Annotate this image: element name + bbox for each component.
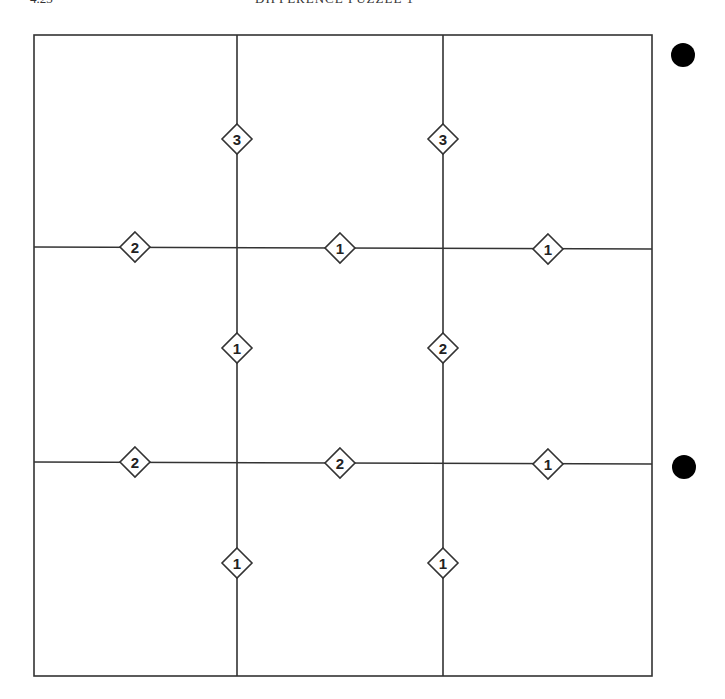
punch-hole-icon xyxy=(672,455,696,479)
diamond-value: 2 xyxy=(439,340,447,357)
diamond-value: 2 xyxy=(131,239,139,256)
diamond-clue: 1 xyxy=(533,449,563,479)
diamond-value: 1 xyxy=(544,241,552,258)
diamond-value: 3 xyxy=(439,131,447,148)
puzzle-grid: 3 3 2 1 1 1 2 2 2 1 1 1 xyxy=(0,0,725,699)
diamond-clue: 2 xyxy=(428,333,458,363)
diamond-value: 2 xyxy=(336,455,344,472)
diamond-value: 1 xyxy=(439,555,447,572)
diamond-clue: 1 xyxy=(533,234,563,264)
diamond-clue: 2 xyxy=(120,447,150,477)
diamond-value: 3 xyxy=(233,131,241,148)
diamond-clue: 2 xyxy=(120,232,150,262)
diamond-clue: 2 xyxy=(325,448,355,478)
diamond-clue: 1 xyxy=(222,333,252,363)
diamond-clue: 3 xyxy=(428,124,458,154)
diamond-clue: 3 xyxy=(222,124,252,154)
diamond-clue: 1 xyxy=(325,233,355,263)
diamond-clue: 1 xyxy=(222,548,252,578)
diamond-value: 1 xyxy=(544,456,552,473)
grid-border xyxy=(34,35,652,676)
grid-lines xyxy=(34,35,652,676)
diamond-value: 1 xyxy=(233,340,241,357)
diamond-value: 1 xyxy=(233,555,241,572)
punch-hole-icon xyxy=(671,43,695,67)
diamond-value: 2 xyxy=(131,454,139,471)
diamond-clue: 1 xyxy=(428,548,458,578)
diamond-value: 1 xyxy=(336,240,344,257)
